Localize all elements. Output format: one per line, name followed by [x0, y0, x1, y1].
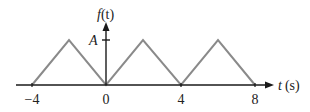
- y-axis-arrow-icon: [103, 22, 110, 31]
- amplitude-label: A: [88, 33, 98, 48]
- tick-label-4: 4: [178, 92, 185, 107]
- triangle-waveform: [32, 40, 255, 85]
- tick-label-neg4: −4: [25, 92, 40, 107]
- triangular-wave-diagram: f(t) A t(s) −4 0 4 8: [0, 0, 310, 112]
- x-axis-arrow-icon: [265, 82, 274, 89]
- x-axis-label: t(s): [278, 78, 300, 94]
- tick-label-0: 0: [103, 92, 110, 107]
- tick-label-8: 8: [252, 92, 259, 107]
- y-axis-label: f(t): [97, 7, 114, 23]
